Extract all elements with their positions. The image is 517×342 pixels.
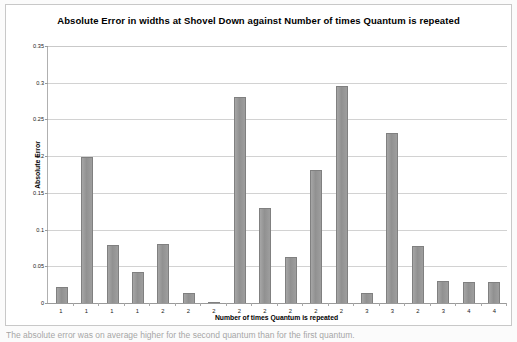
chart-title: Absolute Error in widths at Shovel Down … bbox=[6, 15, 511, 26]
bar[interactable] bbox=[132, 272, 144, 303]
bar-slot bbox=[354, 46, 379, 303]
y-axis-tick-mark bbox=[45, 119, 48, 120]
y-axis-tick-label: 0.3 bbox=[36, 80, 44, 86]
x-axis-title: Number of times Quantum is repeated bbox=[47, 314, 506, 321]
bar-slot bbox=[100, 46, 125, 303]
y-axis-tick-label: 0.2 bbox=[36, 153, 44, 159]
y-axis-tick-label: 0.25 bbox=[33, 116, 44, 122]
x-axis-tick-labels: 111122222222332344 bbox=[48, 305, 507, 314]
x-axis-tick-label: 2 bbox=[227, 305, 253, 314]
bar-slot bbox=[329, 46, 354, 303]
x-axis-tick-label: 2 bbox=[150, 305, 176, 314]
bar-slot bbox=[202, 46, 227, 303]
x-axis-tick-label: 1 bbox=[74, 305, 100, 314]
y-axis-tick-mark bbox=[45, 83, 48, 84]
bar-slot bbox=[481, 46, 506, 303]
bar[interactable] bbox=[285, 257, 297, 303]
bar-slot bbox=[253, 46, 278, 303]
y-axis-tick-label: 0.1 bbox=[36, 227, 44, 233]
y-axis-tick-mark bbox=[45, 46, 48, 47]
bar[interactable] bbox=[56, 287, 68, 303]
x-axis-tick-label: 1 bbox=[48, 305, 74, 314]
bar[interactable] bbox=[183, 293, 195, 303]
x-axis-tick-label: 1 bbox=[125, 305, 151, 314]
y-axis-tick-label: 0.15 bbox=[33, 190, 44, 196]
chart-container: Absolute Error in widths at Shovel Down … bbox=[5, 4, 512, 326]
bar[interactable] bbox=[463, 282, 475, 303]
bar-series bbox=[49, 46, 507, 303]
y-axis-tick-mark bbox=[45, 230, 48, 231]
y-axis-tick-label: 0.35 bbox=[33, 43, 44, 49]
bar[interactable] bbox=[361, 293, 373, 303]
x-axis-tick-label: 3 bbox=[354, 305, 380, 314]
x-axis-tick-label: 2 bbox=[278, 305, 304, 314]
y-axis-title: Absolute Error bbox=[34, 141, 41, 189]
bar-slot bbox=[176, 46, 201, 303]
x-axis-tick-label: 2 bbox=[329, 305, 355, 314]
x-axis-tick-label: 4 bbox=[482, 305, 508, 314]
bar-slot bbox=[125, 46, 150, 303]
bar[interactable] bbox=[336, 86, 348, 303]
bar[interactable] bbox=[259, 208, 271, 303]
bar[interactable] bbox=[310, 170, 322, 303]
bar-slot bbox=[303, 46, 328, 303]
bar[interactable] bbox=[488, 282, 500, 303]
document-text-fragment: The absolute error was on average higher… bbox=[6, 330, 511, 341]
bar-slot bbox=[49, 46, 74, 303]
y-axis-tick-mark bbox=[45, 193, 48, 194]
y-axis-tick-label: 0 bbox=[41, 300, 44, 306]
bar[interactable] bbox=[412, 246, 424, 303]
x-axis-tick-label: 1 bbox=[99, 305, 125, 314]
y-axis-tick-mark bbox=[45, 156, 48, 157]
bar[interactable] bbox=[81, 157, 93, 303]
document-page: Absolute Error in widths at Shovel Down … bbox=[0, 0, 517, 342]
bar[interactable] bbox=[234, 97, 246, 303]
bar-slot bbox=[227, 46, 252, 303]
bar-slot bbox=[151, 46, 176, 303]
bar[interactable] bbox=[437, 281, 449, 303]
bar-slot bbox=[74, 46, 99, 303]
bar[interactable] bbox=[107, 245, 119, 303]
bar[interactable] bbox=[157, 244, 169, 303]
bar-slot bbox=[405, 46, 430, 303]
plot-area: 0.350.30.250.20.150.10.050 bbox=[47, 46, 507, 304]
bar-slot bbox=[380, 46, 405, 303]
x-axis-tick-label: 2 bbox=[252, 305, 278, 314]
x-axis-tick-label: 2 bbox=[201, 305, 227, 314]
x-axis-tick-label: 2 bbox=[405, 305, 431, 314]
y-axis-tick-label: 0.05 bbox=[33, 263, 44, 269]
x-axis-tick-label: 3 bbox=[380, 305, 406, 314]
x-axis-tick-label: 2 bbox=[303, 305, 329, 314]
bar-slot bbox=[456, 46, 481, 303]
x-axis-tick-label: 2 bbox=[176, 305, 202, 314]
bar[interactable] bbox=[386, 133, 398, 303]
x-axis-tick-label: 3 bbox=[431, 305, 457, 314]
bar-slot bbox=[278, 46, 303, 303]
x-axis-tick-label: 4 bbox=[456, 305, 482, 314]
bar-slot bbox=[431, 46, 456, 303]
y-axis-tick-mark bbox=[45, 266, 48, 267]
